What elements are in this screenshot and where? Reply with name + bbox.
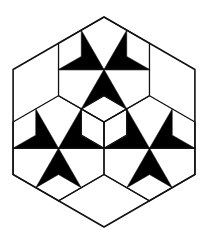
- star-arm-top-upright: [104, 30, 149, 69]
- hexagon-pattern-figure: [0, 0, 206, 245]
- grid-lines: [13, 17, 195, 201]
- cube-edge: [81, 109, 104, 122]
- star-arm-lower-left-down: [36, 148, 81, 187]
- cube-edge: [104, 109, 127, 122]
- star-arm-lower-left-upleft: [13, 109, 58, 148]
- star-arm-top-upleft: [59, 30, 104, 69]
- pattern-canvas: [0, 0, 206, 245]
- star-arm-lower-right-upright: [150, 109, 195, 148]
- star-arm-lower-right-down: [127, 148, 172, 187]
- star-arm-top-down: [81, 70, 126, 109]
